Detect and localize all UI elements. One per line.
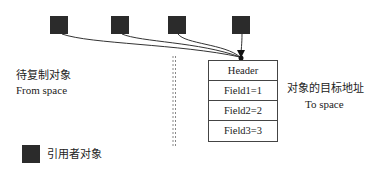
referrer-object-2 <box>111 16 129 34</box>
to-space-label-cn: 对象的目标地址 <box>287 82 364 95</box>
target-row-field3: Field3=3 <box>209 121 277 141</box>
referrer-object-1 <box>50 16 68 34</box>
target-row-field2: Field2=2 <box>209 101 277 121</box>
referrer-object-4 <box>232 16 250 34</box>
from-space-label-cn: 待复制对象 <box>16 69 71 82</box>
target-row-header: Header <box>209 61 277 81</box>
referrer-object-3 <box>168 16 186 34</box>
legend-label: 引用者对象 <box>47 148 102 161</box>
arrow-ref-1 <box>62 34 240 57</box>
target-row-field1: Field1=1 <box>209 81 277 101</box>
to-space-label-en: To space <box>305 98 344 111</box>
target-object: Header Field1=1 Field2=2 Field3=3 <box>208 60 278 142</box>
from-space-label-en: From space <box>16 84 67 97</box>
arrow-ref-4 <box>241 34 242 56</box>
legend-square-icon <box>22 145 40 163</box>
